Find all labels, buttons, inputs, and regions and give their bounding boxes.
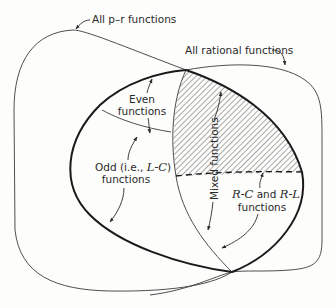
arrow-mixed-down xyxy=(208,202,213,230)
label-odd-2: functions xyxy=(102,173,150,185)
label-odd-1: Odd (i.e., L-C) xyxy=(95,160,171,174)
arrow-odd-down xyxy=(110,188,124,222)
label-rc-rl-1: R-C and R-L xyxy=(231,187,300,201)
diagram-svg: All p–r functions All rational functions… xyxy=(0,0,336,308)
arrow-odd-up xyxy=(128,137,137,160)
label-all-rational: All rational functions xyxy=(185,44,293,56)
set-diagram: All p–r functions All rational functions… xyxy=(0,0,336,308)
label-even-1: Even xyxy=(129,93,155,105)
hatched-region xyxy=(174,70,302,176)
label-even-2: functions xyxy=(118,105,166,117)
arrow-rc-down xyxy=(222,214,258,248)
arrow-all-pr xyxy=(76,20,90,29)
label-all-pr: All p–r functions xyxy=(92,13,176,25)
arrow-even-down xyxy=(148,118,150,133)
arrow-rc-up xyxy=(260,173,263,188)
label-mixed: Mixed functions xyxy=(208,117,220,200)
arrow-even-up xyxy=(147,79,152,93)
label-rc-rl-2: functions xyxy=(238,201,286,213)
